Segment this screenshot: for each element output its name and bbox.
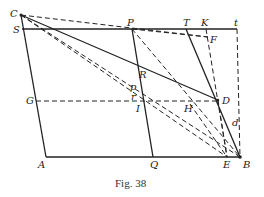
line-PB: [132, 29, 240, 157]
label-Q: Q: [150, 159, 158, 170]
label-S: S: [13, 24, 20, 35]
label-K: K: [200, 17, 209, 28]
label-R: R: [138, 69, 147, 80]
label-F: F: [209, 34, 218, 45]
label-t: t: [234, 17, 239, 28]
label-E: E: [222, 159, 231, 170]
point-D: [217, 99, 219, 101]
point-C: [20, 14, 23, 17]
label-H: H: [183, 103, 193, 114]
line-PF: [132, 29, 208, 37]
label-D: D: [221, 95, 230, 106]
point-B: [238, 155, 242, 159]
line-CA: [21, 15, 46, 157]
label-r: r: [131, 91, 137, 102]
line-DE: [218, 100, 227, 157]
line-tB: [237, 29, 240, 157]
figure-caption: Fig. 38: [115, 177, 147, 189]
label-T: T: [183, 17, 191, 28]
label-A: A: [37, 159, 45, 170]
label-B: B: [242, 159, 250, 170]
label-I: I: [135, 103, 141, 114]
label-G: G: [26, 95, 34, 106]
geometry-figure: C S P T K t F R p r G I H D d A Q E B Fi…: [0, 0, 264, 197]
line-CE: [21, 15, 227, 157]
label-C: C: [10, 8, 18, 19]
line-KE: [206, 29, 227, 157]
label-d: d: [232, 117, 238, 128]
label-P: P: [126, 17, 134, 28]
